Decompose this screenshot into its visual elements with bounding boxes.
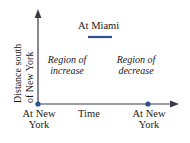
x-axis-label: Time bbox=[78, 108, 100, 119]
region-increase-line2: increase bbox=[50, 65, 84, 76]
x-axis-start-label: At New York bbox=[12, 108, 66, 131]
region-decrease-label: Region of decrease bbox=[104, 55, 168, 77]
x-axis-start-label-line1: At New bbox=[23, 108, 56, 119]
x-axis-end-label: At New York bbox=[122, 108, 176, 131]
region-increase-label: Region of increase bbox=[36, 55, 98, 77]
x-axis-arrowhead bbox=[170, 101, 179, 108]
marker-at-new-york-end bbox=[145, 101, 150, 106]
y-axis-label-line2: of New York bbox=[24, 52, 35, 103]
x-axis-end-label-line1: At New bbox=[133, 108, 166, 119]
x-axis-end-label-line2: York bbox=[122, 119, 176, 130]
region-decrease-line1: Region of bbox=[117, 54, 156, 65]
distance-south-vs-time-figure: Distance south of New York At Miami Regi… bbox=[0, 0, 190, 143]
y-axis-label: Distance south of New York bbox=[0, 0, 36, 110]
region-increase-line1: Region of bbox=[48, 54, 87, 65]
x-axis-start-label-line2: York bbox=[12, 119, 66, 130]
miami-label: At Miami bbox=[78, 20, 119, 31]
y-axis-label-line1: Distance south bbox=[12, 44, 23, 103]
marker-at-new-york-start bbox=[35, 101, 40, 106]
region-decrease-line2: decrease bbox=[118, 65, 153, 76]
